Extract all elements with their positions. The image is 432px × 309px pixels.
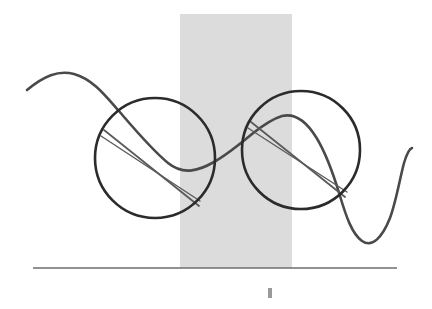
figure-svg (0, 0, 432, 309)
bottom-tick-mark (268, 288, 272, 298)
diagram-canvas (0, 0, 432, 309)
